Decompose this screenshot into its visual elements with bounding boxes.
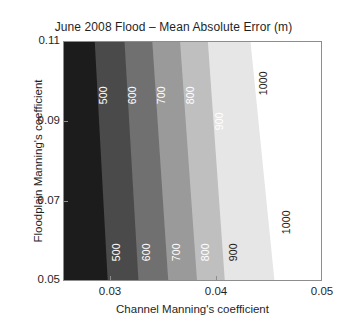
ytick-mark-0-05 xyxy=(63,280,68,281)
contour-label-700-lower: 700 xyxy=(171,243,182,261)
contour-label-800-upper: 800 xyxy=(185,86,196,104)
x-axis-label: Channel Manning's coefficient xyxy=(63,303,322,315)
contour-figure: June 2008 Flood – Mean Absolute Error (m… xyxy=(0,0,347,330)
contour-label-600-lower: 600 xyxy=(141,243,152,261)
contour-label-900-lower: 900 xyxy=(228,243,239,261)
contour-label-700-upper: 700 xyxy=(156,86,167,104)
contour-bands xyxy=(64,42,321,280)
contour-label-500-lower: 500 xyxy=(111,243,122,261)
xtick-label-0-05: 0.05 xyxy=(292,285,347,297)
xtick-label-0-04: 0.04 xyxy=(186,285,246,297)
contour-label-500-upper: 500 xyxy=(98,86,109,104)
page-title: June 2008 Flood – Mean Absolute Error (m… xyxy=(0,20,347,34)
contour-label-600-upper: 600 xyxy=(127,86,138,104)
ytick-mark-0-09 xyxy=(63,121,68,122)
ytick-label-0-05: 0.05 xyxy=(0,273,60,285)
xtick-label-0-03: 0.03 xyxy=(80,285,140,297)
contour-label-800-lower: 800 xyxy=(200,243,211,261)
contour-label-1000-upper: 1000 xyxy=(258,71,269,95)
ytick-mark-0-11 xyxy=(63,41,68,42)
y-axis-label: Floodplain Manning's coefficient xyxy=(32,41,44,281)
plot-area: 500 600 700 800 900 1000 500 600 700 800… xyxy=(63,41,322,281)
contour-label-1000-lower: 1000 xyxy=(281,210,292,234)
ytick-label-0-11: 0.11 xyxy=(0,34,60,46)
xtick-mark-0-03 xyxy=(110,276,111,281)
ytick-mark-0-07 xyxy=(63,201,68,202)
ytick-label-0-09: 0.09 xyxy=(0,114,60,126)
ytick-label-0-07: 0.07 xyxy=(0,194,60,206)
contour-label-900-upper: 900 xyxy=(214,112,225,130)
xtick-mark-0-04 xyxy=(216,276,217,281)
xtick-mark-0-05 xyxy=(321,276,322,281)
